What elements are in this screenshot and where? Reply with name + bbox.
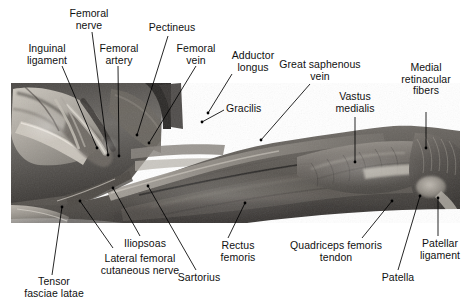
label-quadriceps-femoris-tendon: Quadriceps femoris tendon [288, 240, 384, 263]
label-pectineus: Pectineus [140, 22, 204, 34]
label-iliopsoas: Iliopsoas [120, 238, 170, 250]
label-adductor-longus: Adductor longus [222, 50, 284, 73]
label-great-saphenous-vein: Great saphenous vein [276, 59, 364, 82]
label-femoral-nerve: Femoral nerve [58, 8, 120, 31]
label-inguinal-ligament: Inguinal ligament [14, 43, 80, 66]
label-patellar-ligament: Patellar ligament [412, 238, 468, 261]
label-femoral-artery: Femoral artery [88, 43, 150, 66]
label-lateral-femoral-cutaneous-nerve: Lateral femoral cutaneous nerve [94, 253, 186, 276]
label-rectus-femoris: Rectus femoris [212, 240, 264, 263]
label-medial-retinacular-fibers: Medial retinacular fibers [396, 62, 456, 97]
label-gracilis: Gracilis [226, 103, 278, 115]
label-patella: Patella [375, 272, 421, 284]
label-sartorius: Sartorius [174, 272, 224, 284]
label-vastus-medialis: Vastus medialis [327, 91, 383, 114]
label-femoral-vein: Femoral vein [165, 43, 227, 66]
anatomy-figure: Femoral nerve Pectineus Inguinal ligamen… [0, 0, 470, 307]
label-tensor-fasciae-latae: Tensor fasciae latae [14, 276, 94, 299]
